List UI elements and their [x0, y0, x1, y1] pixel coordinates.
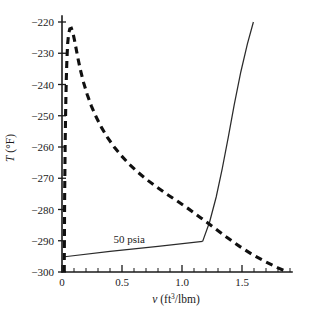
y-tick-label: −290: [31, 235, 54, 247]
x-axis-ticks: [62, 265, 290, 272]
x-axis-title: v (ft3/lbm): [152, 292, 200, 306]
y-tick-label: −260: [31, 141, 54, 153]
x-tick-label: 1.5: [235, 276, 249, 288]
series-saturation-dome: [64, 28, 287, 272]
y-tick-label: −220: [31, 16, 54, 28]
data-series-group: [64, 22, 287, 272]
x-tick-label: 0: [59, 276, 65, 288]
y-tick-label: −300: [31, 266, 54, 278]
chart-canvas: −220−230−240−250−260−270−280−290−300 00.…: [0, 0, 312, 313]
x-tick-label: 0.5: [115, 276, 129, 288]
x-tick-label: 1.0: [175, 276, 189, 288]
y-tick-label: −230: [31, 47, 54, 59]
y-axis-tick-labels: −220−230−240−250−260−270−280−290−300: [31, 16, 54, 278]
thermodynamic-tv-diagram: −220−230−240−250−260−270−280−290−300 00.…: [0, 0, 312, 313]
y-tick-label: −270: [31, 172, 54, 184]
y-tick-label: −240: [31, 79, 54, 91]
annotation-label: 50 psia: [113, 233, 145, 245]
y-tick-label: −280: [31, 204, 54, 216]
x-axis-tick-labels: 00.51.01.5: [59, 276, 249, 288]
axes: [62, 16, 292, 272]
series-superheated-vapor-line: [203, 22, 254, 241]
y-axis-title: T (°F): [4, 134, 17, 162]
y-tick-label: −250: [31, 110, 54, 122]
annotations: 50 psia: [113, 233, 145, 245]
